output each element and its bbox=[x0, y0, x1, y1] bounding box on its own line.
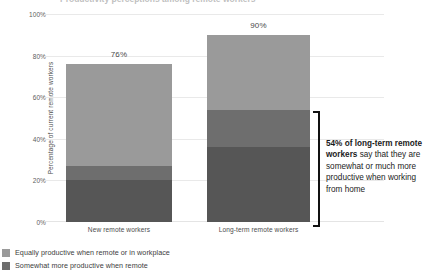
bar-long-term-remote-workers[interactable] bbox=[207, 35, 310, 222]
bar-new-remote-workers[interactable] bbox=[66, 64, 172, 222]
legend-item-equally-productive[interactable]: Equally productive when remote or in wor… bbox=[2, 246, 302, 259]
legend-label: Equally productive when remote or in wor… bbox=[15, 248, 170, 257]
y-tick-100: 100% bbox=[6, 11, 46, 18]
bar-segment-somewhat-more-productive[interactable] bbox=[207, 110, 310, 147]
bar-segment-equally-productive[interactable] bbox=[207, 35, 310, 110]
legend-item-somewhat-more-productive[interactable]: Somewhat more productive when remote bbox=[2, 259, 302, 272]
bar-total-label-new: 76% bbox=[66, 50, 172, 59]
legend-swatch-icon bbox=[2, 262, 10, 270]
y-tick-20: 20% bbox=[6, 177, 46, 184]
y-tick-40: 40% bbox=[6, 135, 46, 142]
bar-segment-somewhat-more-productive[interactable] bbox=[66, 166, 172, 181]
legend: Equally productive when remote or in wor… bbox=[2, 246, 302, 272]
category-label-long-term-remote-workers: Long-term remote workers bbox=[207, 226, 310, 233]
legend-label: Somewhat more productive when remote bbox=[15, 261, 148, 270]
bar-segment-much-more-productive[interactable] bbox=[66, 180, 172, 222]
bar-total-label-long-term: 90% bbox=[207, 21, 310, 30]
y-axis-label-wrap: Percentage of current remote workers bbox=[0, 14, 14, 222]
legend-swatch-icon bbox=[2, 249, 10, 257]
gridline-100 bbox=[44, 14, 384, 15]
category-label-new-remote-workers: New remote workers bbox=[66, 226, 172, 233]
bar-segment-equally-productive[interactable] bbox=[66, 64, 172, 166]
bar-segment-much-more-productive[interactable] bbox=[207, 147, 310, 222]
y-tick-60: 60% bbox=[6, 94, 46, 101]
y-tick-80: 80% bbox=[6, 52, 46, 59]
chart-title: Productivity perceptions among remote wo… bbox=[60, 0, 256, 4]
chart-container: Productivity perceptions among remote wo… bbox=[0, 0, 436, 272]
y-tick-0: 0% bbox=[6, 219, 46, 226]
annotation-bracket bbox=[313, 111, 320, 227]
annotation-callout: 54% of long-term remote workers say that… bbox=[326, 138, 432, 195]
